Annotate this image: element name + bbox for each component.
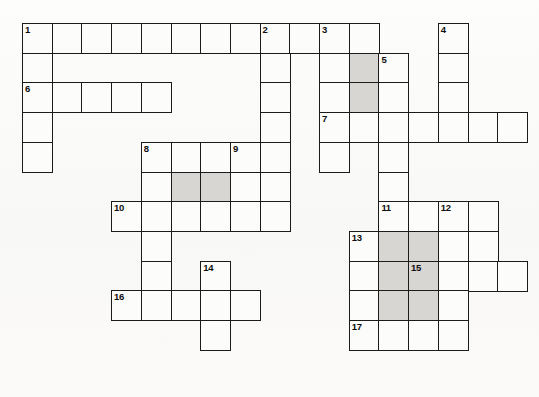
crossword-cell[interactable] <box>111 23 142 54</box>
crossword-cell[interactable] <box>141 290 172 321</box>
crossword-cell[interactable] <box>319 142 350 173</box>
crossword-cell[interactable] <box>141 23 172 54</box>
crossword-cell[interactable] <box>408 231 439 262</box>
crossword-cell[interactable] <box>497 112 528 143</box>
crossword-cell[interactable] <box>260 142 291 173</box>
crossword-cell[interactable] <box>260 172 291 203</box>
crossword-cell-start-3[interactable]: 3 <box>319 23 350 54</box>
crossword-cell[interactable] <box>260 201 291 232</box>
crossword-cell[interactable] <box>378 82 409 113</box>
crossword-cell[interactable] <box>230 172 261 203</box>
crossword-cell[interactable] <box>378 231 409 262</box>
crossword-puzzle: 1234567891011121314151617 <box>0 0 539 397</box>
crossword-cell-start-8[interactable]: 8 <box>141 142 172 173</box>
crossword-cell[interactable] <box>171 172 202 203</box>
crossword-cell[interactable] <box>200 23 231 54</box>
crossword-cell[interactable] <box>200 320 231 351</box>
crossword-cell[interactable] <box>468 201 499 232</box>
crossword-cell[interactable] <box>52 23 83 54</box>
crossword-cell[interactable] <box>260 112 291 143</box>
crossword-cell-start-2[interactable]: 2 <box>260 23 291 54</box>
crossword-cell[interactable] <box>260 53 291 84</box>
crossword-cell[interactable] <box>22 112 53 143</box>
crossword-cell[interactable] <box>438 320 469 351</box>
crossword-cell[interactable] <box>349 290 380 321</box>
crossword-cell[interactable] <box>378 172 409 203</box>
crossword-cell[interactable] <box>200 142 231 173</box>
crossword-cell-start-17[interactable]: 17 <box>349 320 380 351</box>
crossword-cell[interactable] <box>22 53 53 84</box>
crossword-cell[interactable] <box>497 261 528 292</box>
crossword-cell[interactable] <box>260 82 291 113</box>
crossword-cell[interactable] <box>438 290 469 321</box>
crossword-cell[interactable] <box>81 82 112 113</box>
crossword-cell[interactable] <box>378 261 409 292</box>
crossword-cell[interactable] <box>171 201 202 232</box>
crossword-cell-start-6[interactable]: 6 <box>22 82 53 113</box>
crossword-grid[interactable]: 1234567891011121314151617 <box>0 0 539 397</box>
crossword-cell[interactable] <box>200 201 231 232</box>
crossword-cell[interactable] <box>141 261 172 292</box>
crossword-cell-start-10[interactable]: 10 <box>111 201 142 232</box>
crossword-cell[interactable] <box>52 82 83 113</box>
crossword-cell-start-1[interactable]: 1 <box>22 23 53 54</box>
crossword-cell[interactable] <box>141 201 172 232</box>
crossword-cell[interactable] <box>230 201 261 232</box>
crossword-cell[interactable] <box>438 261 469 292</box>
clue-number-14: 14 <box>203 262 213 273</box>
crossword-cell[interactable] <box>378 142 409 173</box>
crossword-cell[interactable] <box>408 320 439 351</box>
crossword-cell-start-9[interactable]: 9 <box>230 142 261 173</box>
crossword-cell[interactable] <box>349 112 380 143</box>
crossword-cell[interactable] <box>378 290 409 321</box>
crossword-cell[interactable] <box>378 112 409 143</box>
crossword-cell[interactable] <box>230 290 261 321</box>
crossword-cell[interactable] <box>111 82 142 113</box>
crossword-cell[interactable] <box>468 261 499 292</box>
crossword-cell[interactable] <box>438 53 469 84</box>
crossword-cell-start-15[interactable]: 15 <box>408 261 439 292</box>
crossword-cell-start-14[interactable]: 14 <box>200 261 231 292</box>
crossword-cell[interactable] <box>230 23 261 54</box>
clue-number-6: 6 <box>25 83 30 94</box>
crossword-cell[interactable] <box>171 23 202 54</box>
crossword-cell[interactable] <box>319 53 350 84</box>
crossword-cell[interactable] <box>468 231 499 262</box>
crossword-cell[interactable] <box>349 53 380 84</box>
crossword-cell[interactable] <box>200 290 231 321</box>
crossword-cell[interactable] <box>438 231 469 262</box>
crossword-cell[interactable] <box>22 142 53 173</box>
crossword-cell[interactable] <box>141 172 172 203</box>
crossword-cell[interactable] <box>81 23 112 54</box>
crossword-cell[interactable] <box>408 112 439 143</box>
crossword-cell[interactable] <box>289 23 320 54</box>
crossword-cell-start-16[interactable]: 16 <box>111 290 142 321</box>
crossword-cell[interactable] <box>349 23 380 54</box>
crossword-cell[interactable] <box>319 82 350 113</box>
crossword-cell[interactable] <box>141 82 172 113</box>
clue-number-9: 9 <box>233 143 238 154</box>
clue-number-13: 13 <box>352 232 362 243</box>
clue-number-5: 5 <box>381 54 386 65</box>
crossword-cell[interactable] <box>438 112 469 143</box>
crossword-cell[interactable] <box>378 320 409 351</box>
crossword-cell-start-4[interactable]: 4 <box>438 23 469 54</box>
crossword-cell[interactable] <box>171 290 202 321</box>
crossword-cell-start-7[interactable]: 7 <box>319 112 350 143</box>
crossword-cell-start-5[interactable]: 5 <box>378 53 409 84</box>
crossword-cell[interactable] <box>200 172 231 203</box>
clue-number-11: 11 <box>381 202 390 213</box>
crossword-cell[interactable] <box>468 112 499 143</box>
crossword-cell-start-13[interactable]: 13 <box>349 231 380 262</box>
crossword-cell[interactable] <box>438 82 469 113</box>
crossword-cell[interactable] <box>349 261 380 292</box>
crossword-cell[interactable] <box>408 201 439 232</box>
crossword-cell-start-12[interactable]: 12 <box>438 201 469 232</box>
crossword-cell[interactable] <box>171 142 202 173</box>
clue-number-8: 8 <box>144 143 149 154</box>
crossword-cell[interactable] <box>141 231 172 262</box>
crossword-cell[interactable] <box>408 290 439 321</box>
clue-number-2: 2 <box>263 24 268 35</box>
crossword-cell[interactable] <box>349 82 380 113</box>
crossword-cell-start-11[interactable]: 11 <box>378 201 409 232</box>
